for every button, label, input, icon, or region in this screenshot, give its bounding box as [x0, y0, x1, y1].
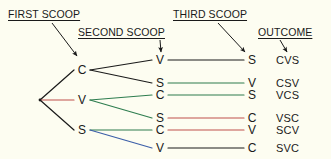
pointer-arrow-second-scoop [160, 40, 161, 52]
header-third-scoop: THIRD SCOOP [173, 8, 247, 20]
node-third-scoop-t6: C [248, 141, 257, 155]
node-second-scoop-c-v: V [156, 53, 164, 67]
pointer-arrow-first-scoop [52, 23, 77, 56]
outcome-VSC: VSC [276, 112, 299, 124]
branch-c1-to-c-v [90, 60, 152, 70]
tree-diagram: FIRST SCOOPSECOND SCOOPTHIRD SCOOPOUTCOM… [0, 0, 331, 159]
node-third-scoop-t5: V [248, 123, 256, 137]
node-third-scoop-t1: S [248, 53, 256, 67]
branch-c1-to-c-s [90, 70, 152, 83]
node-first-scoop-c1: C [78, 63, 87, 77]
pointer-arrow-outcome [280, 40, 287, 52]
branch-lines [39, 60, 244, 148]
branch-s1-to-s-v [90, 130, 152, 148]
branch-root-to-s1 [40, 100, 74, 130]
outcome-SVC: SVC [276, 142, 299, 154]
outcome-CVS: CVS [276, 54, 299, 66]
node-second-scoop-s-v: V [156, 141, 164, 155]
root-node [39, 99, 42, 102]
branch-root-to-c1 [40, 70, 74, 100]
outcome-CSV: CSV [276, 77, 299, 89]
branch-v1-to-v-s [90, 100, 152, 118]
branch-v1-to-v-c [90, 95, 152, 100]
outcome-VCS: VCS [276, 89, 299, 101]
header-outcome: OUTCOME [258, 26, 312, 38]
outcome-SCV: SCV [276, 124, 299, 136]
node-second-scoop-s-c: C [156, 123, 165, 137]
header-first-scoop: FIRST SCOOP [8, 8, 80, 20]
node-second-scoop-v-c: C [156, 88, 165, 102]
pointer-arrow-third-scoop [218, 23, 245, 52]
header-second-scoop: SECOND SCOOP [78, 26, 165, 38]
node-third-scoop-t3: S [248, 88, 256, 102]
node-first-scoop-v1: V [78, 93, 86, 107]
node-first-scoop-s1: S [78, 123, 86, 137]
